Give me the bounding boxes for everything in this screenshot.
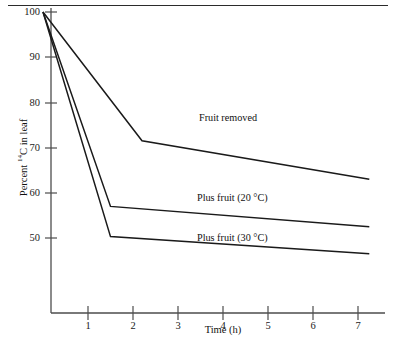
chart-figure: 100 90 80 70 60 50 1 2 3 4 5 6 7 Percent…: [0, 0, 394, 349]
y-axis-title-prefix: Percent: [18, 162, 29, 196]
x-tick-label-7: 7: [350, 321, 366, 332]
y-axis-title: Percent 14C in leaf: [18, 93, 29, 223]
series-label-fruit-removed: Fruit removed: [199, 112, 257, 123]
y-tick-label-100: 100: [14, 7, 40, 18]
y-tick-label-50: 50: [14, 233, 40, 244]
data-series-group: [43, 12, 369, 254]
x-tick-label-2: 2: [125, 321, 141, 332]
series-label-plus-fruit-20c: Plus fruit (20 °C): [197, 192, 268, 203]
series-line-plus-fruit-30c: [43, 12, 369, 254]
line-chart-plot-area: [0, 0, 394, 349]
y-tick-label-90: 90: [14, 52, 40, 63]
axes-group: [51, 8, 385, 313]
y-axis-title-superscript: 14: [16, 155, 24, 162]
y-axis-title-suffix: C in leaf: [18, 119, 29, 155]
x-tick-label-1: 1: [80, 321, 96, 332]
x-tick-label-6: 6: [305, 321, 321, 332]
series-label-plus-fruit-30c: Plus fruit (30 °C): [197, 232, 268, 243]
x-axis-title: Time (h): [178, 324, 268, 335]
